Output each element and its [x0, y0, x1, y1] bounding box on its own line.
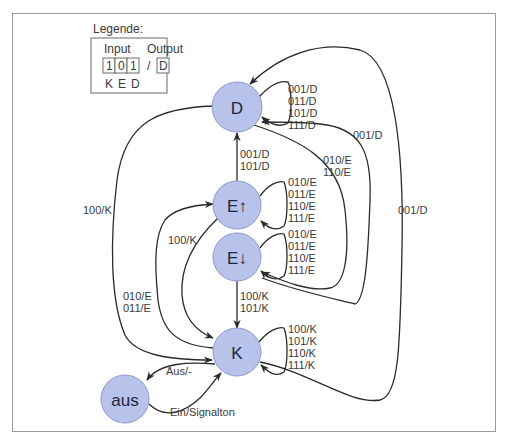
- edge-d-to-k: [112, 106, 213, 360]
- label-d-to-edown-1: 110/E: [323, 166, 351, 178]
- node-e-up: E↑: [213, 181, 261, 229]
- label-d-self-2: 101/D: [288, 107, 317, 119]
- label-d-to-edown-0: 010/E: [323, 154, 352, 166]
- node-d-label: D: [231, 99, 243, 118]
- edge-edown-to-d: [262, 122, 370, 304]
- label-eup-self-1: 011/E: [288, 188, 316, 200]
- node-e-down: E↓: [213, 233, 261, 281]
- label-d-to-k: 100/K: [83, 204, 112, 216]
- label-eup-to-d-1: 101/D: [240, 160, 269, 172]
- label-edown-to-k-1: 101/K: [240, 302, 269, 314]
- label-k-self-0: 100/K: [288, 323, 317, 335]
- label-k-to-eup-0: 010/E: [123, 290, 152, 302]
- label-k-to-eup-1: 011/E: [123, 302, 151, 314]
- label-k-to-d: 001/D: [398, 204, 427, 216]
- legend-bit-d: 1: [130, 59, 137, 73]
- node-k: K: [213, 328, 261, 376]
- label-d-self-1: 011/D: [288, 95, 317, 107]
- label-eup-self-2: 110/E: [288, 200, 316, 212]
- label-edown-self-2: 110/E: [288, 252, 316, 264]
- legend-output-value: D: [159, 59, 168, 73]
- edge-k-to-eup: [156, 204, 213, 348]
- legend-bitname-e: E: [118, 77, 126, 91]
- legend-input-label: Input: [104, 42, 131, 56]
- label-eup-to-d-0: 001/D: [240, 148, 269, 160]
- node-aus-label: aus: [111, 391, 138, 410]
- node-k-label: K: [231, 344, 243, 363]
- edge-edown-self: [260, 234, 287, 279]
- edge-d-self: [259, 82, 291, 126]
- label-d-self-3: 111/D: [288, 119, 316, 131]
- legend: Legende: Input Output 1 0 1 / D K E D: [91, 22, 184, 93]
- label-edown-self-0: 010/E: [288, 228, 317, 240]
- legend-output-label: Output: [147, 42, 184, 56]
- label-edown-to-d: 001/D: [353, 129, 382, 141]
- label-d-self-0: 001/D: [288, 83, 317, 95]
- state-diagram: Legende: Input Output 1 0 1 / D K E D: [0, 0, 510, 444]
- label-eup-to-k: 100/K: [168, 234, 197, 246]
- label-edown-self-3: 111/E: [288, 264, 315, 276]
- edge-k-to-d: [250, 47, 402, 401]
- label-eup-self-0: 010/E: [288, 176, 317, 188]
- label-k-self-3: 111/K: [288, 359, 316, 371]
- label-aus-to-k: Ein/Signalton: [170, 406, 235, 418]
- edge-k-self: [259, 328, 287, 375]
- node-d: D: [212, 82, 262, 132]
- label-k-self-2: 110/K: [288, 347, 317, 359]
- node-aus: aus: [101, 375, 149, 423]
- label-eup-self-3: 111/E: [288, 212, 315, 224]
- node-e-up-label: E↑: [227, 197, 247, 216]
- edge-eup-self: [260, 182, 287, 229]
- node-e-down-label: E↓: [227, 249, 247, 268]
- label-edown-to-k-0: 100/K: [240, 290, 269, 302]
- label-edown-self-1: 011/E: [288, 240, 316, 252]
- legend-title: Legende:: [93, 22, 143, 36]
- legend-bitname-k: K: [105, 77, 113, 91]
- legend-bit-e: 0: [118, 59, 125, 73]
- label-k-self-1: 101/K: [288, 335, 317, 347]
- legend-bit-k: 1: [106, 59, 113, 73]
- legend-bitname-d: D: [131, 77, 140, 91]
- label-k-to-aus: Aus/-: [166, 365, 192, 377]
